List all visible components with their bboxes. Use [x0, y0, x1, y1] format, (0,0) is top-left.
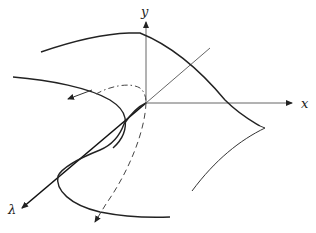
lambda-axis-label: λ: [7, 202, 16, 217]
depth-axis-back: [146, 48, 210, 103]
hidden-arc: [96, 85, 146, 103]
y-axis-label: y: [140, 4, 149, 19]
bifurcation-diagram: y x λ: [0, 0, 316, 233]
s-cusp-curve: [58, 103, 170, 217]
x-axis-label: x: [301, 96, 309, 111]
dashed-projection-curve: [95, 103, 146, 222]
upper-surface-edge: [41, 33, 260, 126]
left-fold-curve: [13, 77, 125, 118]
fold-direction-arrow: [68, 90, 92, 99]
right-cusp-edge: [192, 126, 265, 191]
